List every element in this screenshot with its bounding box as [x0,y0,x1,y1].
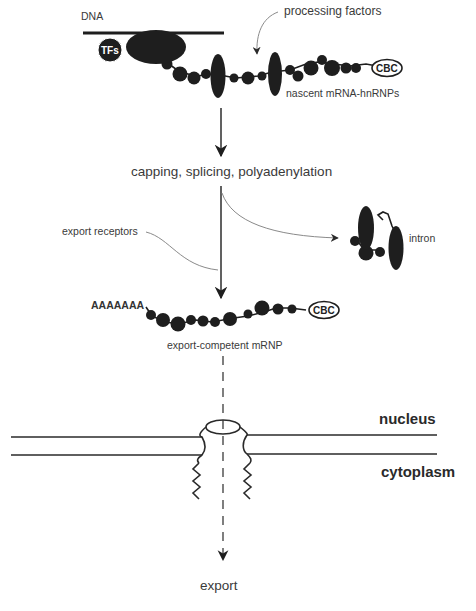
export-label: export [200,578,238,593]
tfs-label: TFs [101,45,119,56]
cbc-label-bottom: CBC [313,305,335,316]
rna-polymerase-blob-icon [126,30,186,64]
polya-tail-label: AAAAAAA [91,299,144,311]
mrnp-label: export-competent mRNP [167,339,283,351]
transcription-section: DNA TFs CBC [81,4,402,99]
cbc-label-top: CBC [376,63,398,74]
cytoplasm-label: cytoplasm [381,463,455,480]
hnrnp-beads-bottom [146,301,297,332]
export-receptors-label: export receptors [62,225,138,237]
intron-lariat-icon [350,206,404,270]
intron-label: intron [409,232,435,244]
nascent-label: nascent mRNA-hnRNPs [286,87,399,99]
diagram-svg: DNA TFs CBC [0,0,476,611]
export-receptors-pointer [146,232,218,270]
processing-factors-label: processing factors [284,4,381,18]
processing-factor-icon [268,52,282,96]
processing-factors-arrow [257,12,278,54]
hnrnp-beads-top [162,55,362,85]
diagram-canvas: DNA TFs CBC [0,0,476,611]
processing-factor-icon [211,54,226,98]
mrnp-section: AAAAAAA CBC export-competent mRNP [91,299,339,351]
arrow-to-intron [222,193,338,238]
nuclear-envelope: nucleus cytoplasm [11,410,455,499]
processing-steps-label: capping, splicing, polyadenylation [131,164,332,179]
dna-label: DNA [81,10,103,22]
nuclear-pore-complex-icon [193,420,251,499]
nucleus-label: nucleus [379,410,436,427]
